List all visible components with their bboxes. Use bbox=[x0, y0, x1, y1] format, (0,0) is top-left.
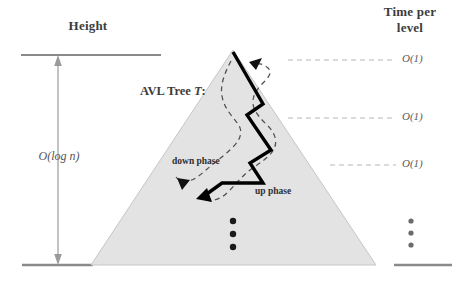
right-ellipsis-dot bbox=[408, 218, 413, 223]
down-phase-label: down phase bbox=[172, 156, 220, 166]
tree-ellipsis-dot bbox=[230, 244, 236, 250]
tree-ellipsis-dot bbox=[230, 218, 236, 224]
up-phase-label: up phase bbox=[255, 186, 291, 196]
avl-tree-label-suffix: : bbox=[202, 84, 206, 98]
figure-canvas: Height Time per level O(log n) AVL Tree … bbox=[0, 0, 462, 284]
diagram-svg bbox=[0, 0, 462, 284]
tree-ellipsis-dot bbox=[230, 231, 236, 237]
level-cost-3-arg: (1) bbox=[410, 157, 423, 169]
right-ellipsis-dot bbox=[408, 230, 413, 235]
time-per-level-heading-line1: Time per bbox=[384, 4, 436, 19]
level-cost-1-arg: (1) bbox=[410, 52, 423, 64]
avl-tree-label-italic: T bbox=[194, 84, 202, 98]
level-cost-label-2: O(1) bbox=[402, 110, 423, 122]
avl-tree-label: AVL Tree T: bbox=[140, 84, 206, 99]
height-measure-arg: (log n) bbox=[47, 149, 79, 163]
right-ellipsis-dot bbox=[408, 242, 413, 247]
time-per-level-heading: Time per level bbox=[362, 4, 458, 36]
height-measure-label: O(log n) bbox=[16, 149, 102, 164]
level-cost-3-o: O bbox=[402, 157, 410, 169]
avl-tree-label-prefix: AVL Tree bbox=[140, 84, 194, 98]
level-cost-label-3: O(1) bbox=[402, 157, 423, 169]
level-cost-label-1: O(1) bbox=[402, 52, 423, 64]
height-measure-o: O bbox=[39, 149, 48, 163]
time-per-level-heading-line2: level bbox=[397, 20, 423, 35]
height-heading: Height bbox=[38, 18, 138, 34]
level-cost-1-o: O bbox=[402, 52, 410, 64]
height-arrow-down-head bbox=[54, 254, 62, 265]
level-cost-2-o: O bbox=[402, 110, 410, 122]
height-arrow-up-head bbox=[54, 55, 62, 66]
level-cost-2-arg: (1) bbox=[410, 110, 423, 122]
